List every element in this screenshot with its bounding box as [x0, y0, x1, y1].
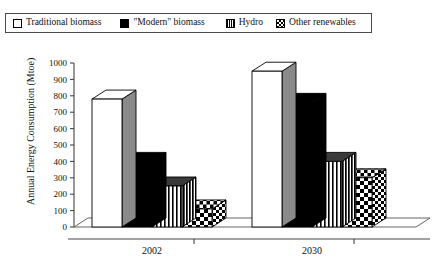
y-tick-label: 500 [54, 140, 68, 150]
legend-item-modern-biomass: "Modern" biomass [120, 18, 204, 28]
chart-page: Traditional biomass "Modern" biomass Hyd… [0, 0, 438, 273]
legend-label: Other renewables [289, 18, 356, 28]
y-tick-label: 800 [54, 91, 68, 101]
y-axis: 01002003004005006007008009001000 [49, 58, 74, 232]
y-tick-label: 900 [54, 75, 68, 85]
y-tick-label: 600 [54, 124, 68, 134]
bar-traditional-biomass-2002 [92, 90, 136, 227]
checkerboard-square-icon [276, 19, 285, 28]
vertical-stripe-square-icon [226, 19, 235, 28]
bar-traditional-biomass-2030 [252, 62, 296, 227]
black-square-icon [120, 19, 129, 28]
y-tick-label: 700 [54, 107, 68, 117]
x-category-label: 2030 [302, 245, 322, 256]
y-axis-title: Annual Energy Consumption (Mtoe) [25, 58, 37, 205]
legend-item-hydro: Hydro [226, 18, 263, 28]
y-tick-label: 0 [63, 222, 68, 232]
legend-label: Traditional biomass [26, 18, 101, 28]
bars-layer [92, 62, 386, 227]
legend-label: Hydro [239, 18, 263, 28]
y-tick-label: 100 [54, 206, 68, 216]
y-tick-label: 1000 [49, 58, 68, 68]
legend-label: "Modern" biomass [133, 18, 204, 28]
legend-item-traditional-biomass: Traditional biomass [13, 18, 101, 28]
y-tick-label: 400 [54, 157, 68, 167]
bar-chart: Annual Energy Consumption (Mtoe) 0100200… [0, 33, 438, 273]
chart-legend: Traditional biomass "Modern" biomass Hyd… [5, 13, 372, 33]
x-category-label: 2002 [142, 245, 162, 256]
white-square-icon [13, 19, 22, 28]
x-axis: 20022030 [142, 239, 354, 256]
legend-item-other-renewables: Other renewables [276, 18, 356, 28]
y-tick-label: 300 [54, 173, 68, 183]
y-tick-label: 200 [54, 189, 68, 199]
